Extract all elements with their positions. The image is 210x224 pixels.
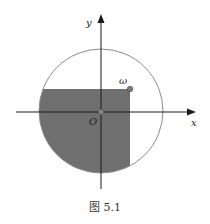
shaded-region: [30, 89, 130, 189]
x-axis-arrow-icon: [187, 109, 196, 116]
omega-label: ω: [119, 75, 127, 86]
origin-point: [99, 110, 104, 115]
x-axis-label: x: [191, 117, 197, 128]
unit-circle-diagram: y x O ω 图 5.1: [0, 0, 210, 224]
y-axis-label: y: [85, 17, 92, 28]
figure-caption: 图 5.1: [89, 201, 121, 214]
omega-point: [127, 86, 133, 92]
origin-label: O: [89, 116, 97, 127]
y-axis-arrow-icon: [98, 14, 105, 23]
